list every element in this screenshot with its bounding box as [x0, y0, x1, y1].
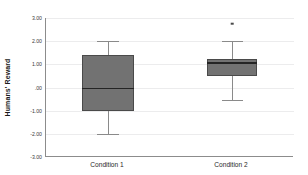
- plot-frame: 3.002.001.00.00-1.00-2.00-3.00: [45, 18, 293, 157]
- gridline: [46, 111, 294, 112]
- whisker-cap-upper: [97, 41, 119, 42]
- y-axis-tick-label: .00: [35, 85, 42, 91]
- whisker-upper: [108, 41, 109, 55]
- box-plot-chart: Humans' Reward 3.002.001.00.00-1.00-2.00…: [0, 0, 308, 175]
- median-line-1: [82, 88, 134, 90]
- gridline: [46, 41, 294, 42]
- x-axis-label-2: Condition 2: [214, 161, 247, 168]
- y-axis-tick-label: -2.00: [30, 131, 42, 137]
- whisker-cap-upper: [222, 41, 243, 42]
- y-axis-tick-label: 1.00: [32, 61, 42, 67]
- whisker-cap-lower: [222, 100, 243, 101]
- outlier-point: [231, 22, 234, 25]
- x-axis-label-1: Condition 1: [90, 161, 123, 168]
- box-2: [207, 59, 257, 76]
- whisker-lower: [232, 76, 233, 100]
- y-axis-tick-label: 2.00: [32, 38, 42, 44]
- y-axis-tick-label: -1.00: [30, 108, 42, 114]
- whisker-cap-lower: [97, 134, 119, 135]
- y-axis-tick-label: 3.00: [32, 15, 42, 21]
- y-axis-title: Humans' Reward: [0, 0, 14, 175]
- gridline: [46, 18, 294, 19]
- median-line-2: [207, 62, 257, 64]
- y-axis-tick-label: -3.00: [30, 154, 42, 160]
- whisker-lower: [108, 111, 109, 134]
- plot-area: 3.002.001.00.00-1.00-2.00-3.00: [46, 18, 293, 156]
- box-1: [82, 55, 134, 111]
- gridline: [46, 134, 294, 135]
- whisker-upper: [232, 41, 233, 58]
